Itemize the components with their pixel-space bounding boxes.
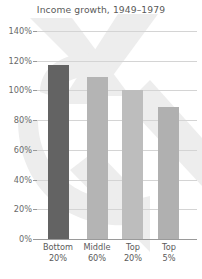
y-tick-label-80: 80% (0, 115, 32, 125)
y-tick-label-60: 60% (0, 145, 32, 155)
y-tick-label-100: 100% (0, 85, 32, 95)
plot-area (37, 31, 197, 239)
x-axis-line (37, 239, 197, 240)
chart-title: Income growth, 1949–1979 (0, 4, 202, 15)
gridline-120 (37, 61, 197, 62)
y-tick-label-120: 120% (0, 56, 32, 66)
bar-middle-60[interactable] (87, 77, 108, 239)
y-axis: 140% 120% 100% 80% 60% 40% 20% 0% (0, 31, 35, 239)
chart-container: Income growth, 1949–1979 140% 120% 100% … (0, 0, 202, 279)
bar-bottom-20[interactable] (48, 65, 69, 239)
x-label-top-5: Top 5% (144, 242, 194, 264)
bar-top-5[interactable] (158, 107, 179, 239)
x-axis-labels: Bottom 20% Middle 60% Top 20% Top 5% (37, 242, 197, 276)
bar-top-20[interactable] (122, 90, 143, 239)
gridline-140 (37, 31, 197, 32)
y-tick-label-0: 0% (0, 234, 32, 244)
y-tick-label-20: 20% (0, 204, 32, 214)
x-label-line1: Top (144, 242, 194, 253)
x-label-line2: 5% (144, 253, 194, 264)
y-tick-label-140: 140% (0, 26, 32, 36)
y-tick-label-40: 40% (0, 175, 32, 185)
